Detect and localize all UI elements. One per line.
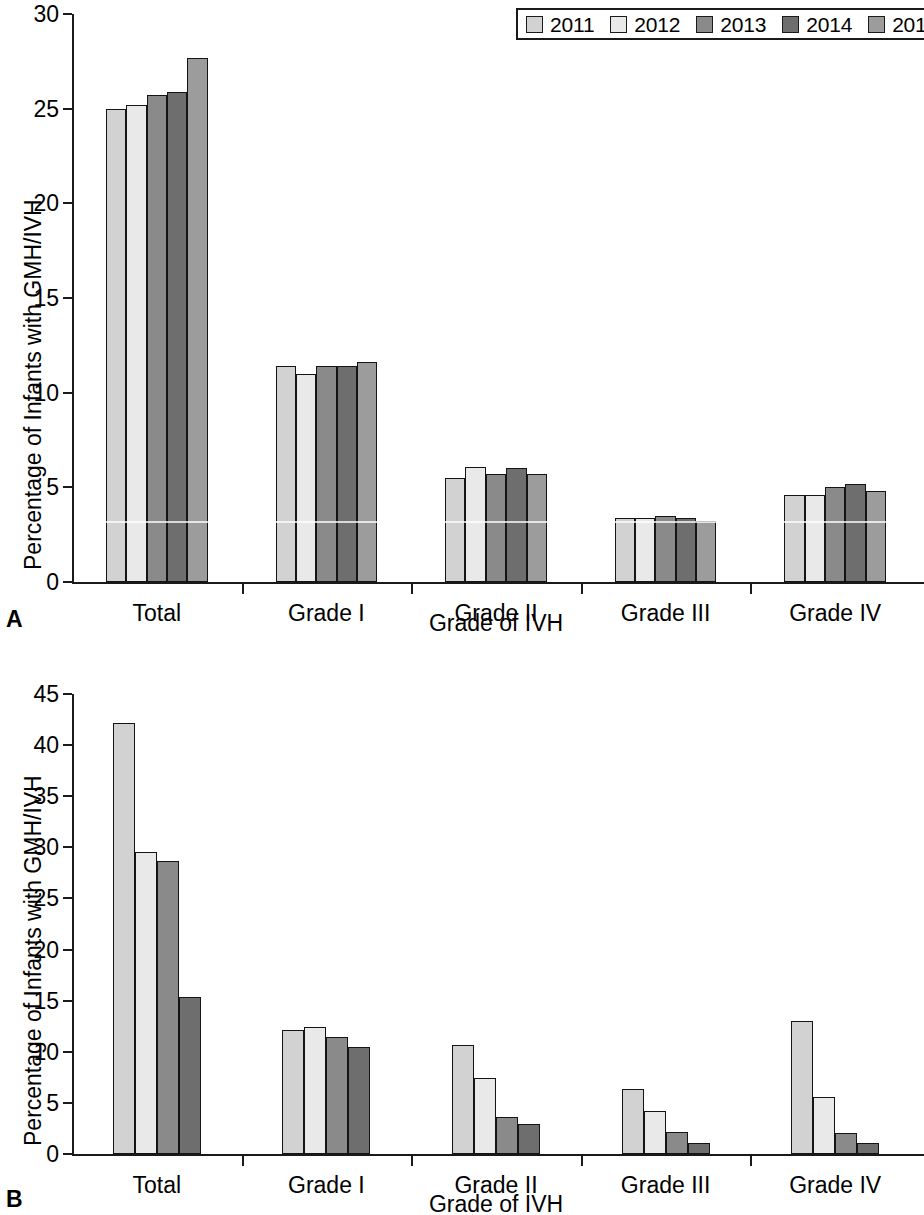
y-axis-tick — [63, 108, 72, 110]
x-axis-category-label: Total — [133, 602, 182, 625]
x-axis-tick — [750, 1156, 752, 1166]
y-axis-tick — [63, 949, 72, 951]
x-axis-line — [72, 1154, 924, 1156]
x-axis-category-label: Grade III — [621, 1174, 710, 1197]
panel-b: 500–750 g751–1000 g1001–1250 g1251–1500 … — [0, 640, 924, 1215]
y-axis-tick — [63, 744, 72, 746]
y-axis-tick — [63, 13, 72, 15]
y-axis-title-panel-a: Percentage of Infants with GMH/IVH — [22, 199, 45, 570]
bar — [666, 1132, 688, 1154]
bar — [326, 1037, 348, 1154]
y-axis-tick-label: 40 — [33, 734, 59, 757]
bar — [696, 521, 716, 582]
y-axis-tick-label: 0 — [46, 571, 59, 594]
y-axis-tick — [63, 1000, 72, 1002]
bar — [518, 1124, 540, 1154]
x-axis-tick — [242, 584, 244, 594]
y-axis-tick — [63, 693, 72, 695]
bar — [676, 518, 696, 582]
y-axis-line — [72, 694, 74, 1156]
x-axis-category-label: Grade I — [288, 602, 365, 625]
bar — [474, 1078, 496, 1154]
y-axis-tick — [63, 1051, 72, 1053]
panel-letter-b: B — [6, 1188, 23, 1211]
bar — [825, 487, 845, 582]
x-axis-tick — [750, 584, 752, 594]
y-axis-tick — [63, 486, 72, 488]
bar — [126, 105, 146, 582]
bar — [805, 495, 825, 582]
x-axis-line — [72, 582, 924, 584]
bar — [304, 1027, 326, 1154]
x-axis-tick — [581, 1156, 583, 1166]
bar — [527, 474, 547, 582]
x-axis-title-panel-a: Grade of IVH — [429, 612, 563, 635]
bar — [465, 467, 485, 582]
panel-a: 20112012201320142015 051015202530TotalGr… — [0, 0, 924, 640]
x-axis-tick — [411, 1156, 413, 1166]
x-axis-category-label: Total — [133, 1174, 182, 1197]
bar — [157, 861, 179, 1154]
y-axis-tick — [63, 297, 72, 299]
y-axis-tick — [63, 392, 72, 394]
y-axis-line — [72, 14, 74, 584]
bar — [644, 1111, 666, 1154]
bar — [276, 366, 296, 582]
bar — [452, 1045, 474, 1154]
y-axis-tick — [63, 581, 72, 583]
x-axis-tick — [411, 584, 413, 594]
x-axis-category-label: Grade I — [288, 1174, 365, 1197]
bar — [688, 1143, 710, 1154]
panel-letter-a: A — [6, 608, 23, 631]
x-axis-category-label: Grade IV — [789, 1174, 881, 1197]
bar — [187, 58, 207, 582]
y-axis-tick — [63, 1102, 72, 1104]
bar — [866, 491, 886, 582]
y-axis-tick-label: 5 — [46, 1091, 59, 1114]
y-axis-tick — [63, 897, 72, 899]
y-axis-tick — [63, 1153, 72, 1155]
x-axis-category-label: Grade IV — [789, 602, 881, 625]
y-axis-tick-label: 45 — [33, 683, 59, 706]
bar — [282, 1030, 304, 1154]
bar — [486, 474, 506, 582]
bar — [357, 362, 377, 582]
bar — [113, 723, 135, 1154]
y-axis-tick-label: 5 — [46, 476, 59, 499]
bar — [348, 1047, 370, 1154]
bar — [135, 852, 157, 1154]
y-axis-tick-label: 0 — [46, 1143, 59, 1166]
bar — [316, 366, 336, 582]
x-axis-title-panel-b: Grade of IVH — [429, 1193, 563, 1215]
bar — [445, 478, 465, 582]
plot-area-panel-a: 051015202530TotalGrade IGrade IIGrade II… — [72, 14, 920, 582]
bar — [296, 374, 316, 582]
bar — [506, 468, 526, 582]
y-axis-tick — [63, 795, 72, 797]
y-axis-tick — [63, 846, 72, 848]
bar — [496, 1117, 518, 1154]
plot-area-panel-b: 051015202530354045TotalGrade IGrade IIGr… — [72, 694, 920, 1154]
y-axis-tick-label: 30 — [33, 3, 59, 26]
bar — [106, 109, 126, 582]
x-axis-tick — [581, 584, 583, 594]
bar — [857, 1143, 879, 1154]
y-axis-tick — [63, 202, 72, 204]
bar — [813, 1097, 835, 1154]
x-axis-tick — [242, 1156, 244, 1166]
bar — [784, 495, 804, 582]
bar — [147, 95, 167, 582]
x-axis-category-label: Grade III — [621, 602, 710, 625]
bar — [337, 366, 357, 582]
y-axis-title-panel-b: Percentage of Infants with GMH/IVH — [22, 775, 45, 1146]
bar — [615, 518, 635, 582]
bar — [635, 518, 655, 582]
bar — [167, 92, 187, 582]
bar — [845, 484, 865, 582]
y-axis-tick-label: 25 — [33, 97, 59, 120]
bar — [791, 1021, 813, 1154]
bar — [835, 1133, 857, 1154]
bar — [179, 997, 201, 1154]
bar — [622, 1089, 644, 1154]
bar — [655, 516, 675, 582]
